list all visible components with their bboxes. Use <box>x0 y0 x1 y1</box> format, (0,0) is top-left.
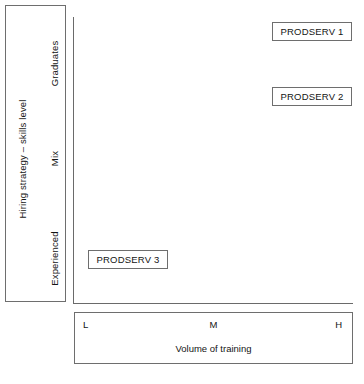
plot-item-prodserv-2[interactable]: PRODSERV 2 <box>272 87 352 106</box>
x-axis-tick-high: H <box>335 319 342 331</box>
plot-item-prodserv-3[interactable]: PRODSERV 3 <box>88 250 168 269</box>
matrix-figure: Hiring strategy – skills level Graduates… <box>0 0 364 384</box>
y-axis-label-box: Hiring strategy – skills level Graduates… <box>5 5 66 302</box>
plot-item-prodserv-1[interactable]: PRODSERV 1 <box>272 22 352 41</box>
vertical-axis-line <box>73 17 74 304</box>
y-axis-title: Hiring strategy – skills level <box>16 59 30 259</box>
x-axis-tick-medium: M <box>75 319 352 331</box>
horizontal-axis-line <box>73 303 353 304</box>
y-axis-tick-experienced: Experienced <box>48 199 61 319</box>
x-axis-title: Volume of training <box>75 343 352 355</box>
x-axis-label-box: L M H Volume of training <box>74 312 353 364</box>
